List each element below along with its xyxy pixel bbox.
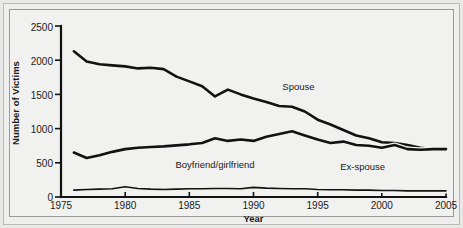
series-label-ex-spouse: Ex-spouse	[340, 161, 385, 172]
x-tick-label: 2005	[435, 200, 458, 211]
x-tick-label: 1995	[307, 200, 330, 211]
x-tick-labels: 1975 1980 1985 1990 1995 2000 2005	[50, 200, 458, 211]
y-axis-title: Number of Victims	[10, 61, 21, 145]
series-label-spouse: Spouse	[282, 81, 314, 92]
line-chart-plot: Number of Victims 0 500 1000 1500 2000 2…	[0, 0, 463, 228]
series-line-boyfriend-girlfriend	[74, 131, 446, 158]
series-label-boyfriend-girlfriend: Boyfriend/girlfriend	[175, 159, 254, 170]
y-tick-label: 500	[36, 158, 53, 169]
x-tick-label: 1990	[242, 200, 265, 211]
y-tick-labels: 0 500 1000 1500 2000 2500	[31, 22, 54, 203]
x-tick-label: 1975	[50, 200, 73, 211]
x-tick-label: 1980	[114, 200, 137, 211]
x-tick-label: 2000	[371, 200, 394, 211]
x-axis-title: Year	[243, 213, 263, 224]
series-line-spouse	[74, 51, 446, 149]
y-tick-label: 2000	[31, 56, 54, 67]
series-annotations: SpouseBoyfriend/girlfriendEx-spouse	[162, 81, 388, 172]
y-tick-label: 1500	[31, 90, 54, 101]
y-tick-label: 1000	[31, 124, 54, 135]
chart-figure: Number of Victims 0 500 1000 1500 2000 2…	[0, 0, 463, 228]
y-tick-label: 2500	[31, 22, 54, 33]
x-tick-label: 1985	[178, 200, 201, 211]
